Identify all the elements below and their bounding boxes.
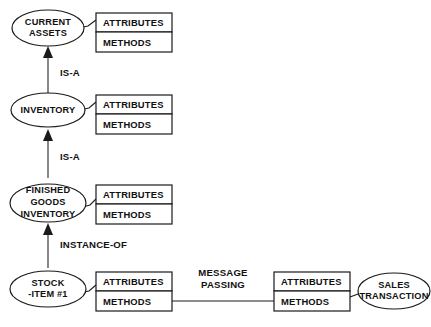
node-sales-transaction[interactable]: ATTRIBUTES METHODS SALES TRANSACTION (274, 272, 430, 311)
methods-label-sales-transaction: METHODS (281, 296, 329, 307)
node-label-current-assets-line1: CURRENT (25, 17, 72, 27)
methods-label-finished-goods: METHODS (103, 209, 151, 220)
attributes-label-current-assets: ATTRIBUTES (103, 17, 164, 28)
relationship-label-is-a-2: IS-A (60, 151, 80, 162)
node-label-sales-transaction-line1: SALES (378, 280, 410, 290)
diagram-svg: CURRENT ASSETS ATTRIBUTES METHODS IS-A I… (0, 0, 431, 327)
node-label-stock-item-line2: -ITEM #1 (28, 289, 67, 299)
node-label-finished-goods-line1: FINISHED (26, 185, 71, 195)
node-label-stock-item-line1: STOCK (32, 278, 65, 288)
diagram-canvas: CURRENT ASSETS ATTRIBUTES METHODS IS-A I… (0, 0, 431, 327)
relationship-instance-of: INSTANCE-OF (43, 223, 127, 268)
instance-of-arrowhead-icon (43, 223, 53, 235)
node-current-assets[interactable]: CURRENT ASSETS ATTRIBUTES METHODS (12, 10, 172, 52)
relationship-is-a-2: IS-A (43, 129, 80, 178)
relationship-label-instance-of: INSTANCE-OF (60, 239, 127, 250)
methods-label-current-assets: METHODS (103, 37, 151, 48)
is-a-1-arrowhead-icon (43, 46, 53, 58)
node-label-sales-transaction-line2: TRANSACTION (359, 291, 428, 301)
is-a-2-arrowhead-icon (43, 129, 53, 141)
methods-label-stock-item: METHODS (103, 296, 151, 307)
attributes-label-sales-transaction: ATTRIBUTES (281, 276, 342, 287)
node-inventory[interactable]: INVENTORY ATTRIBUTES METHODS (11, 93, 172, 134)
relationship-label-is-a-1: IS-A (60, 67, 80, 78)
node-label-finished-goods-line2: GOODS (30, 197, 65, 207)
attributes-label-inventory: ATTRIBUTES (103, 99, 164, 110)
relationship-label-message-passing-line1: MESSAGE (198, 267, 248, 278)
node-label-inventory: INVENTORY (21, 105, 76, 115)
relationship-message-passing: MESSAGE PASSING (172, 267, 274, 301)
node-stock-item-1[interactable]: STOCK -ITEM #1 ATTRIBUTES METHODS (10, 271, 172, 311)
relationship-label-message-passing-line2: PASSING (201, 279, 245, 290)
methods-label-inventory: METHODS (103, 119, 151, 130)
relationship-is-a-1: IS-A (43, 46, 80, 95)
attributes-label-stock-item: ATTRIBUTES (103, 276, 164, 287)
node-finished-goods-inventory[interactable]: FINISHED GOODS INVENTORY ATTRIBUTES METH… (10, 184, 172, 224)
node-label-finished-goods-line3: INVENTORY (21, 209, 76, 219)
node-label-current-assets-line2: ASSETS (29, 28, 67, 38)
attributes-label-finished-goods: ATTRIBUTES (103, 189, 164, 200)
